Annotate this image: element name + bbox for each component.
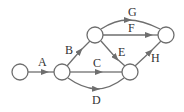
node-2	[54, 64, 70, 80]
edge-h: H	[135, 41, 161, 66]
node-3	[87, 27, 103, 43]
edge-label-c: C	[93, 56, 101, 70]
edge-label-a: A	[38, 55, 47, 69]
edge-b: B	[65, 41, 90, 66]
edge-a: A	[28, 55, 54, 72]
edge-e: E	[101, 41, 125, 66]
node-4	[122, 64, 138, 80]
edge-label-e: E	[118, 45, 125, 59]
edge-label-g: G	[128, 5, 137, 19]
edge-c: C	[70, 56, 122, 72]
edge-d: D	[68, 78, 124, 107]
edge-label-d: D	[92, 93, 101, 107]
network-diagram: A B C D E F G H	[0, 0, 184, 112]
node-1	[12, 64, 28, 80]
node-5	[158, 27, 174, 43]
edge-label-b: B	[65, 43, 73, 57]
edge-label-h: H	[151, 51, 160, 65]
edge-label-f: F	[128, 21, 135, 35]
